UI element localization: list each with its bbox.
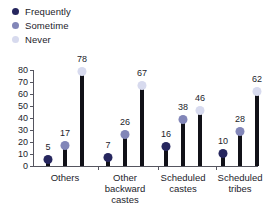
bar-value-label: 7 [105,141,110,150]
category-label-0: Others [31,172,99,183]
bar-dot [236,127,245,136]
bar-never-0: 78 [80,72,84,166]
bar-sometime-3: 28 [238,132,242,166]
bar-dot [44,155,53,164]
bar-never-3: 62 [255,92,259,166]
bar-value-label: 67 [137,69,147,78]
bar-dot [219,149,228,158]
bar-stem [140,86,144,166]
bar-stem [198,111,202,166]
bar-value-label: 78 [77,55,87,64]
legend-swatch-sometime [12,22,19,29]
bar-frequently-3: 10 [221,154,225,166]
bar-value-label: 16 [161,130,171,139]
bar-dot [253,87,262,96]
bar-stem [80,72,84,166]
chart-container: Frequently Sometime Never 01020304050607… [0,0,268,213]
bar-value-label: 5 [45,143,50,152]
bar-frequently-2: 16 [164,147,168,166]
bar-never-1: 67 [140,86,144,166]
bar-dot [162,142,171,151]
legend-item-frequently: Frequently [12,5,71,18]
bar-sometime-2: 38 [181,120,185,166]
plot-area: 01020304050607080 5177872667163846102862… [0,48,268,213]
bar-stem [238,132,242,166]
bar-value-label: 46 [195,94,205,103]
bar-stem [181,120,185,166]
bar-stem [255,92,259,166]
category-label-3: Scheduled tribes [206,172,268,194]
bar-value-label: 28 [235,115,245,124]
legend-label-never: Never [25,34,51,45]
bar-frequently-0: 5 [46,160,50,166]
bar-value-label: 62 [252,75,262,84]
bar-never-2: 46 [198,111,202,166]
bar-stem [123,135,127,166]
legend-swatch-never [12,36,19,43]
bar-dot [121,130,130,139]
bar-dot [196,106,205,115]
bar-dot [104,153,113,162]
bar-dot [78,67,87,76]
bar-dot [179,115,188,124]
bar-value-label: 38 [178,103,188,112]
legend-swatch-frequently [12,8,19,15]
bar-sometime-1: 26 [123,135,127,166]
bar-value-label: 10 [218,137,228,146]
bar-sometime-0: 17 [63,146,67,166]
bar-value-label: 26 [120,118,130,127]
bar-dot [61,141,70,150]
bar-value-label: 17 [60,129,70,138]
legend-label-frequently: Frequently [25,6,71,17]
bar-frequently-1: 7 [106,158,110,166]
bar-dot [138,81,147,90]
legend-label-sometime: Sometime [25,20,69,31]
legend-item-sometime: Sometime [12,19,71,32]
legend-item-never: Never [12,33,71,46]
chart-legend: Frequently Sometime Never [12,5,71,46]
